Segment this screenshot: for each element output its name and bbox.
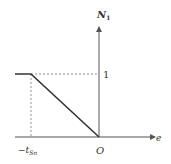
origin-label: O xyxy=(96,145,104,156)
x-axis-label: e xyxy=(156,133,161,143)
diagram-canvas: N1 1 O e −tSn xyxy=(0,0,171,164)
x-tick-label-neg-tsn: −tSn xyxy=(18,145,37,156)
n1-curve xyxy=(15,74,99,137)
y-axis-label: N1 xyxy=(96,9,110,21)
y-tick-label-one: 1 xyxy=(103,69,109,80)
